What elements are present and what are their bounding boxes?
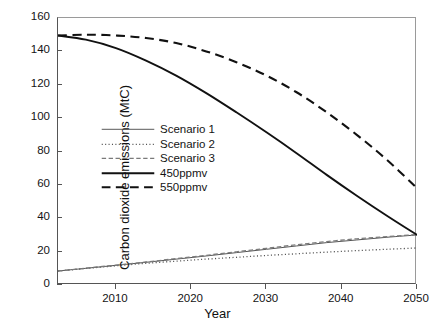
legend-item[interactable]: Scenario 2 [100,137,225,152]
y-axis-tick-label: 0 [14,278,50,290]
x-axis-tick-label: 2050 [394,293,435,305]
y-axis-tick-label: 80 [14,145,50,157]
legend-item[interactable]: 550ppmv [100,180,225,195]
legend-label: Scenario 1 [160,123,215,135]
legend-swatch-550ppmv [100,180,156,195]
legend-swatch-scenario-2 [100,137,156,152]
x-axis-tick-mark [416,284,417,289]
x-axis-tick-mark [265,284,266,289]
y-axis-tick-label: 60 [14,178,50,190]
y-axis-tick-label: 100 [14,111,50,123]
x-axis-tick-label: 2030 [243,293,287,305]
legend-swatch-scenario-1 [100,122,156,137]
legend-swatch-scenario-3 [100,151,156,166]
y-axis-tick-label: 160 [14,11,50,23]
x-axis-tick-mark [190,284,191,289]
legend-label: Scenario 3 [160,152,215,164]
legend-item[interactable]: Scenario 3 [100,151,225,166]
legend-label: 450ppmv [160,167,207,179]
legend-label: Scenario 2 [160,138,215,150]
x-axis-tick-label: 2020 [168,293,212,305]
legend-item[interactable]: Scenario 1 [100,122,225,137]
legend-item[interactable]: 450ppmv [100,166,225,181]
y-axis-tick-label: 140 [14,44,50,56]
chart-legend: Scenario 1Scenario 2Scenario 3450ppmv550… [100,122,225,195]
x-axis-tick-label: 2040 [319,293,363,305]
x-axis-title: Year [0,306,435,321]
y-axis-tick-label: 40 [14,211,50,223]
legend-swatch-450ppmv [100,166,156,181]
x-axis-tick-mark [341,284,342,289]
y-axis-tick-label: 120 [14,78,50,90]
legend-label: 550ppmv [160,181,207,193]
y-axis-tick-label: 20 [14,245,50,257]
chart-container: 020406080100120140160 201020202030204020… [0,0,435,332]
